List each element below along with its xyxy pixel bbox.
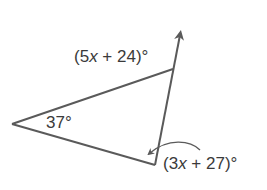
- exterior-angle-label: (5x + 24)°: [74, 47, 148, 66]
- interior-angle-label: 37°: [46, 113, 72, 132]
- extended-ray-arrow: [155, 35, 180, 165]
- side-left-bottom: [12, 124, 155, 165]
- triangle-diagram: 37° (5x + 24)° (3x + 27)°: [0, 0, 267, 190]
- bottom-angle-label: (3x + 27)°: [163, 154, 237, 173]
- side-left-top: [12, 69, 173, 124]
- triangle: [12, 69, 173, 165]
